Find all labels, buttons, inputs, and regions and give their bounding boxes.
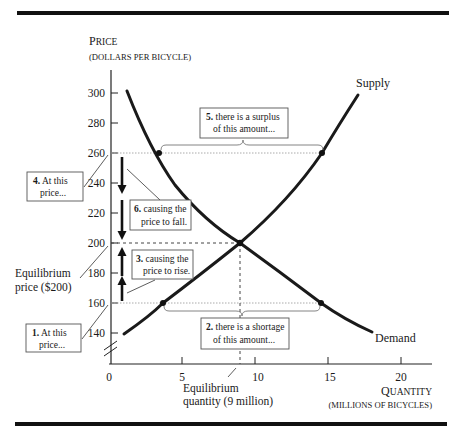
price-rise-arrows [118,247,127,301]
svg-text:4. At this: 4. At this [33,176,68,186]
y-tick-label: 140 [88,327,106,339]
equilibrium-price-label-2: price ($200) [15,281,72,294]
svg-text:1. At this: 1. At this [32,328,67,338]
shortage-brace [164,306,320,316]
leader-3 [127,280,155,293]
svg-text:5. there is a surplus: 5. there is a surplus [206,112,280,122]
y-ticks: 300 280 260 240 220 200 180 160 140 [88,87,118,339]
annotation-box-3: 3. causing the price to rise. [132,250,193,279]
annotation-box-1: 1. At this price... [26,324,81,352]
y-tick-label: 280 [88,117,106,129]
leader-6 [127,169,160,200]
equilibrium-qty-label-1: Equilibrium [183,382,239,395]
equilibrium-qty-label-2: quantity (9 million) [183,395,273,408]
supply-demand-chart: PRICE (DOLLARS PER BICYCLE) 300 280 260 … [0,0,462,435]
surplus-brace [161,140,323,150]
svg-text:price...: price... [40,188,66,198]
y-tick-label: 260 [88,147,106,159]
equilibrium-price-label-1: Equilibrium [15,267,71,280]
svg-text:price to rise.: price to rise. [143,266,190,276]
supply-point-260 [319,150,325,156]
y-tick-label: 160 [88,297,106,309]
top-rule [17,11,449,15]
supply-point-160 [160,300,166,306]
leader-eq-qty [228,368,236,377]
x-tick-label: 10 [252,371,264,383]
x-ticks: 0 5 10 15 20 [106,357,407,383]
y-tick-label: 180 [88,267,106,279]
x-tick-label: 0 [106,371,112,383]
annotation-box-6: 6. causing the price to fall. [130,200,191,230]
annotation-box-5: 5. there is a surplus of this amount... [200,108,288,138]
svg-text:price to fall.: price to fall. [141,217,187,227]
y-tick-label: 200 [88,237,106,249]
svg-text:6. causing the: 6. causing the [134,204,187,214]
annotation-box-4: 4. At this price... [27,172,83,201]
svg-text:of this amount...: of this amount... [213,335,275,345]
y-axis-subtitle: (DOLLARS PER BICYCLE) [89,52,191,62]
demand-point-160 [318,300,324,306]
supply-label: Supply [356,76,390,90]
demand-label: Demand [375,331,416,345]
x-tick-label: 20 [395,371,407,383]
x-axis-title: QUANTITY [381,384,432,398]
y-axis-title: PRICE [89,34,118,48]
price-fall-arrows [118,157,127,240]
svg-text:price...: price... [39,340,65,350]
bottom-rule [15,422,447,426]
y-tick-label: 220 [88,207,106,219]
annotation-box-2: 2. there is a shortage of this amount... [201,318,289,349]
equilibrium-point [237,240,243,246]
svg-text:2. there is a shortage: 2. there is a shortage [206,322,284,332]
x-tick-label: 15 [324,371,336,383]
x-axis-subtitle: (MILLIONS OF BICYCLES) [328,400,432,410]
y-tick-label: 300 [88,87,106,99]
demand-point-260 [156,150,162,156]
svg-text:of this amount...: of this amount... [213,124,275,134]
svg-text:3. causing the: 3. causing the [136,254,189,264]
